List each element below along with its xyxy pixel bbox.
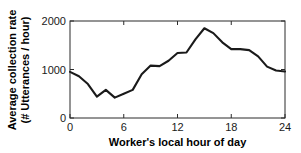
y-tick-label-2000: 2000 xyxy=(42,15,66,27)
y-tick-label-1000: 1000 xyxy=(42,64,66,76)
x-tick-label-18: 18 xyxy=(225,121,237,133)
x-axis-title: Worker's local hour of day xyxy=(109,136,247,148)
line-chart: 0 1000 2000 0 6 12 18 24 Worker's local … xyxy=(0,0,301,153)
chart-figure: 0 1000 2000 0 6 12 18 24 Worker's local … xyxy=(0,0,301,153)
y-axis-title-line1: Average collection rate xyxy=(6,10,18,131)
y-axis-title-line2: (# Utterances / hour) xyxy=(19,16,31,123)
x-tick-label-0: 0 xyxy=(67,121,73,133)
x-tick-label-24: 24 xyxy=(279,121,291,133)
x-tick-label-12: 12 xyxy=(171,121,183,133)
y-tick-label-0: 0 xyxy=(60,112,66,124)
x-tick-label-6: 6 xyxy=(121,121,127,133)
